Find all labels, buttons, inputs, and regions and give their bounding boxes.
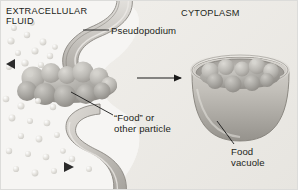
particle-lobe [41, 63, 61, 83]
solute-dot [3, 96, 10, 103]
solute-dot [47, 53, 53, 59]
solute-dot [27, 118, 33, 124]
solute-dot [36, 136, 43, 143]
particle-specular [94, 70, 99, 75]
solute-dot [9, 115, 16, 122]
solute-dot [21, 59, 28, 66]
particle-lobe [94, 83, 111, 100]
engulfed-lobe [218, 59, 234, 75]
solute-dot [52, 44, 58, 50]
solute-dot [15, 50, 21, 56]
particle-lobe [54, 85, 76, 107]
solute-dot [38, 62, 44, 68]
engulfed-specular [205, 64, 210, 69]
particle-lobe [76, 84, 96, 104]
solute-dot [6, 148, 12, 154]
engulfed-lobe [207, 73, 223, 89]
engulfed-lobe [249, 58, 265, 74]
solute-dot [51, 168, 57, 174]
engulfed-lobe [225, 76, 242, 93]
particle-lobe [17, 81, 37, 101]
engulfed-lobe [260, 73, 274, 87]
label-food-vacuole: Food vacuole [231, 147, 265, 168]
solute-dot [24, 32, 30, 38]
solute-dot [32, 170, 39, 177]
solute-dot [43, 154, 50, 161]
solute-dot [40, 39, 47, 46]
particle-specular [27, 71, 33, 77]
solute-dot [86, 166, 92, 172]
solute-dot [7, 37, 14, 44]
solute-dot [32, 48, 39, 55]
solute-dot [50, 104, 56, 110]
solute-dot [13, 166, 19, 172]
solute-dot [25, 151, 31, 157]
phagocytosis-figure: EXTRACELLULAR FLUID CYTOPLASM Pseudopodi… [0, 0, 298, 190]
label-extracellular-fluid: EXTRACELLULAR FLUID [6, 6, 87, 27]
food-vacuole-right [192, 55, 289, 141]
label-cytoplasm: CYTOPLASM [181, 8, 240, 18]
solute-dot [69, 156, 75, 162]
label-pseudopodium: Pseudopodium [111, 26, 176, 37]
particle-specular [77, 65, 83, 71]
solute-dot [60, 148, 66, 154]
engulfed-specular [252, 60, 257, 65]
label-food-particle: “Food” or other particle [114, 113, 171, 134]
solute-dot [18, 103, 25, 110]
engulfed-lobe [244, 75, 260, 91]
solute-dot [35, 98, 41, 104]
engulfed-lobe [235, 62, 250, 77]
solute-dot [44, 120, 51, 127]
solute-dot [18, 133, 24, 139]
solute-dot [54, 132, 60, 138]
